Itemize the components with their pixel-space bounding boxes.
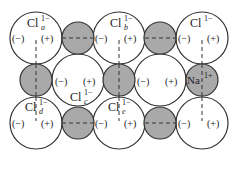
svg-text:(−): (−) bbox=[137, 76, 149, 88]
svg-text:1−: 1− bbox=[84, 88, 93, 97]
svg-text:Cl: Cl bbox=[108, 100, 120, 114]
svg-text:1−: 1− bbox=[41, 14, 50, 23]
svg-text:Cl: Cl bbox=[25, 100, 37, 114]
svg-text:1−: 1− bbox=[122, 98, 131, 107]
svg-text:(+): (+) bbox=[207, 118, 219, 130]
svg-text:Cl: Cl bbox=[27, 16, 39, 30]
svg-text:(+): (+) bbox=[83, 76, 95, 88]
svg-text:(−): (−) bbox=[12, 118, 24, 130]
svg-text:(−): (−) bbox=[55, 76, 67, 88]
svg-text:(+): (+) bbox=[124, 118, 136, 130]
svg-text:1−: 1− bbox=[124, 14, 133, 23]
svg-text:1+: 1+ bbox=[204, 71, 213, 80]
svg-text:(+): (+) bbox=[207, 33, 219, 45]
svg-text:(−): (−) bbox=[95, 33, 107, 45]
svg-text:1−: 1− bbox=[39, 98, 48, 107]
svg-text:1−: 1− bbox=[204, 14, 213, 23]
svg-text:Na: Na bbox=[187, 74, 200, 86]
nacl-crystal-diagram: Cl 1− a Cl 1− b Cl 1− (−)(+) (−)(+) (−)(… bbox=[0, 0, 239, 172]
svg-text:Cl: Cl bbox=[70, 90, 82, 104]
svg-text:(+): (+) bbox=[41, 33, 53, 45]
svg-text:b: b bbox=[124, 23, 128, 32]
svg-text:(+): (+) bbox=[165, 76, 177, 88]
svg-text:a: a bbox=[41, 23, 45, 32]
svg-text:e: e bbox=[122, 107, 126, 116]
svg-text:Cl: Cl bbox=[110, 16, 122, 30]
svg-text:c: c bbox=[84, 97, 88, 106]
svg-text:(−): (−) bbox=[12, 33, 24, 45]
svg-text:(−): (−) bbox=[178, 33, 190, 45]
svg-text:(−): (−) bbox=[178, 118, 190, 130]
svg-text:(+): (+) bbox=[41, 118, 53, 130]
svg-text:Cl: Cl bbox=[190, 16, 202, 30]
svg-text:(+): (+) bbox=[124, 33, 136, 45]
svg-text:(−): (−) bbox=[95, 118, 107, 130]
